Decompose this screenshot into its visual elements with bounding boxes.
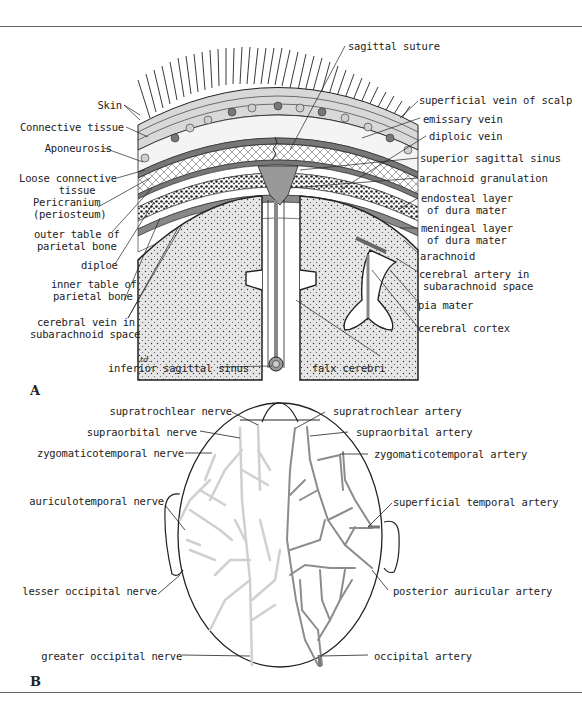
label-cerebral-vein-1: cerebral vein in — [37, 316, 135, 328]
label-cerebral-vein-2: subarachnoid space — [30, 328, 140, 340]
label-greater-occipital-nerve: greater occipital nerve — [41, 650, 182, 662]
label-cerebral-artery-1: cerebral artery in — [419, 268, 529, 280]
label-pericranium-2: (periosteum) — [33, 208, 106, 220]
label-occipital-artery: occipital artery — [374, 650, 472, 662]
bottom-rule — [0, 692, 582, 693]
label-endosteal-1: endosteal layer — [421, 192, 513, 204]
label-loose-connective-1: Loose connective — [19, 172, 117, 184]
panel-letter-a: A — [30, 383, 40, 398]
label-diploic-vein: diploic vein — [429, 130, 502, 142]
label-outer-table-1: outer table of — [34, 228, 120, 240]
label-arachnoid: arachnoid — [420, 250, 475, 262]
label-cerebral-cortex: cerebral cortex — [418, 322, 510, 334]
label-diploe: diploe — [81, 259, 118, 271]
label-supratrochlear-artery: supratrochlear artery — [333, 405, 462, 417]
label-loose-connective-2: tissue — [52, 184, 102, 196]
panel-letter-b: B — [30, 674, 41, 689]
label-sagittal-suture: sagittal suture — [348, 40, 440, 52]
label-arachnoid-granulation: arachnoid granulation — [419, 172, 548, 184]
label-falx-cerebri: falx cerebri — [312, 362, 385, 374]
label-lesser-occipital-nerve: lesser occipital nerve — [22, 585, 157, 597]
label-supratrochlear-nerve: supratrochlear nerve — [110, 405, 232, 417]
label-meningeal-1: meningeal layer — [421, 222, 513, 234]
label-zygomaticotemporal-nerve: zygomaticotemporal nerve — [37, 447, 184, 459]
label-inner-table-2: parietal bone — [53, 290, 133, 302]
label-posterior-auricular-artery: posterior auricular artery — [393, 585, 552, 597]
label-superficial-temporal-artery: superficial temporal artery — [393, 496, 558, 508]
label-inferior-sagittal-sinus: inferior sagittal sinus — [108, 362, 249, 374]
label-superficial-vein: superficial vein of scalp — [419, 94, 572, 106]
label-skin: Skin — [98, 99, 123, 111]
label-outer-table-2: parietal bone — [37, 240, 117, 252]
label-auriculotemporal-nerve: auriculotemporal nerve — [29, 495, 164, 507]
label-superior-sagittal-sinus: superior sagittal sinus — [420, 152, 561, 164]
label-aponeurosis: Aponeurosis — [45, 142, 112, 154]
label-pericranium-1: Pericranium — [33, 196, 100, 208]
label-inner-table-1: inner table of — [51, 278, 137, 290]
label-supraorbital-nerve: supraorbital nerve — [87, 426, 197, 438]
label-cerebral-artery-2: subarachnoid space — [423, 280, 533, 292]
label-connective-tissue: Connective tissue — [20, 121, 124, 133]
label-zygomaticotemporal-artery: zygomaticotemporal artery — [374, 448, 527, 460]
label-endosteal-2: of dura mater — [427, 204, 507, 216]
label-pia-mater: pia mater — [418, 299, 473, 311]
label-supraorbital-artery: supraorbital artery — [356, 426, 472, 438]
label-emissary-vein: emissary vein — [423, 113, 503, 125]
label-meningeal-2: of dura mater — [427, 234, 507, 246]
